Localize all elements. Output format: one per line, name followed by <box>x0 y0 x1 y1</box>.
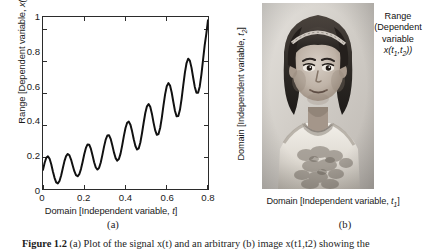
panel-a-plot: Range [Dependent variable, x(t)] 0 0.2 0… <box>0 0 222 222</box>
figure-caption: Figure 1.2 (a) Plot of the signal x(t) a… <box>22 238 426 249</box>
panel-a-y-axis-label-variable: x(t) <box>16 0 27 7</box>
panel-b-y-axis-label: Domain [Independent variable, t2] <box>236 10 248 178</box>
panel-a-axis-ticks <box>43 17 208 189</box>
annotation-line-3: variable <box>352 34 444 45</box>
sublabel-b: (b) <box>300 219 390 230</box>
panel-b-y-axis-label-variable: t <box>236 33 246 35</box>
sublabel-a: (a) <box>68 219 158 230</box>
annotation-line-2: (Dependent <box>352 22 444 33</box>
y-tick-06: 0.6 <box>27 80 40 91</box>
panel-a-x-axis-label-suffix: ] <box>175 205 178 216</box>
figure-caption-text: (a) Plot of the signal x(t) and an arbit… <box>69 238 369 249</box>
x-tick-04: 0.4 <box>119 192 132 203</box>
panel-b-y-axis-label-subscript: 2 <box>241 30 248 34</box>
annotation-end: )) <box>406 45 412 55</box>
panel-b-y-axis-label-suffix: ] <box>236 27 246 29</box>
panel-a-x-axis-label: Domain [Independent variable, t] <box>0 205 222 216</box>
figure-root: Range [Dependent variable, x(t)] 0 0.2 0… <box>0 0 444 249</box>
panel-b-image: Domain [Independent variable, t2] <box>222 0 444 222</box>
panel-a-plot-area <box>42 16 209 190</box>
y-tick-08: 0.8 <box>27 45 40 56</box>
x-tick-0: 0 <box>39 192 44 203</box>
panel-a-x-axis-label-prefix: Domain [Independent variable, <box>45 205 172 216</box>
y-tick-02: 0.2 <box>27 150 40 161</box>
figure-caption-label: Figure 1.2 <box>22 238 67 249</box>
panel-a-data-curve <box>43 20 208 183</box>
panel-b-x-axis-label-suffix: ] <box>397 196 399 206</box>
annotation-var: x(t <box>384 45 394 55</box>
annotation-line-4: x(t1,t2)) <box>352 45 444 59</box>
annotation-line-1: Range <box>352 11 444 22</box>
panel-b-range-annotation: Range (Dependent variable x(t1,t2)) <box>352 11 444 59</box>
panel-a-waveform-svg <box>43 17 208 189</box>
x-tick-02: 0.2 <box>77 192 90 203</box>
panel-b-x-axis-label: Domain [Independent variable, t1] <box>222 196 444 208</box>
x-tick-06: 0.6 <box>161 192 174 203</box>
x-tick-08: 0.8 <box>201 192 214 203</box>
panel-b-y-axis-label-prefix: Domain [Independent variable, <box>236 36 246 161</box>
panel-a-y-tick-labels: 0 0.2 0.4 0.6 0.8 1 <box>14 16 40 190</box>
y-tick-1: 1 <box>35 11 40 22</box>
panel-a-x-tick-labels: 0 0.2 0.4 0.6 0.8 <box>42 192 209 206</box>
y-tick-04: 0.4 <box>27 115 40 126</box>
panel-b-x-axis-label-prefix: Domain [Independent variable, <box>266 196 391 206</box>
